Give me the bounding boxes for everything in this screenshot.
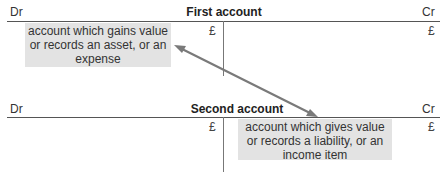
double-headed-arrow-icon [0, 0, 448, 180]
